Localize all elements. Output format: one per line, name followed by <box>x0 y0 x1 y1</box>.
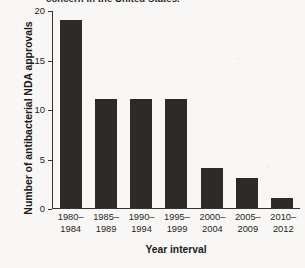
y-tick-mark <box>48 110 52 111</box>
bar <box>130 99 152 208</box>
x-tick-label: 1990–1994 <box>124 212 159 235</box>
bar-slot <box>265 11 300 208</box>
x-axis-tick-labels: 1980–19841985–19891990–19941995–19992000… <box>53 212 301 235</box>
bar <box>271 198 293 208</box>
bar-chart-figure: Number of antibacterial NDA approvals 05… <box>0 0 305 268</box>
x-tick-label: 1985–1989 <box>88 212 123 235</box>
y-tick-label: 15 <box>34 56 45 66</box>
x-axis-title: Year interval <box>52 244 300 255</box>
bar-slot <box>194 11 229 208</box>
bar <box>201 168 223 208</box>
x-tick-label: 1995–1999 <box>159 212 194 235</box>
bar-slot <box>229 11 264 208</box>
y-axis-title: Number of antibacterial NDA approvals <box>22 18 34 218</box>
y-tick-label: 0 <box>40 204 45 214</box>
y-tick-label: 10 <box>34 105 45 115</box>
bar-slot <box>53 11 88 208</box>
y-tick-label: 20 <box>34 6 45 16</box>
y-tick-mark <box>48 209 52 210</box>
plot-area: 05101520 <box>52 11 300 209</box>
x-tick-label: 1980–1984 <box>53 212 88 235</box>
bar-slot <box>159 11 194 208</box>
bar-series <box>53 11 300 208</box>
y-tick-mark <box>48 11 52 12</box>
x-tick-label: 2000–2004 <box>195 212 230 235</box>
bar <box>95 99 117 208</box>
bar <box>236 178 258 208</box>
bar-slot <box>124 11 159 208</box>
bar <box>60 20 82 208</box>
y-tick-mark <box>48 61 52 62</box>
x-tick-label: 2010–2012 <box>266 212 301 235</box>
bar-slot <box>88 11 123 208</box>
x-tick-label: 2005–2009 <box>230 212 265 235</box>
y-tick-label: 5 <box>40 155 45 165</box>
y-tick-mark <box>48 160 52 161</box>
bar <box>165 99 187 208</box>
